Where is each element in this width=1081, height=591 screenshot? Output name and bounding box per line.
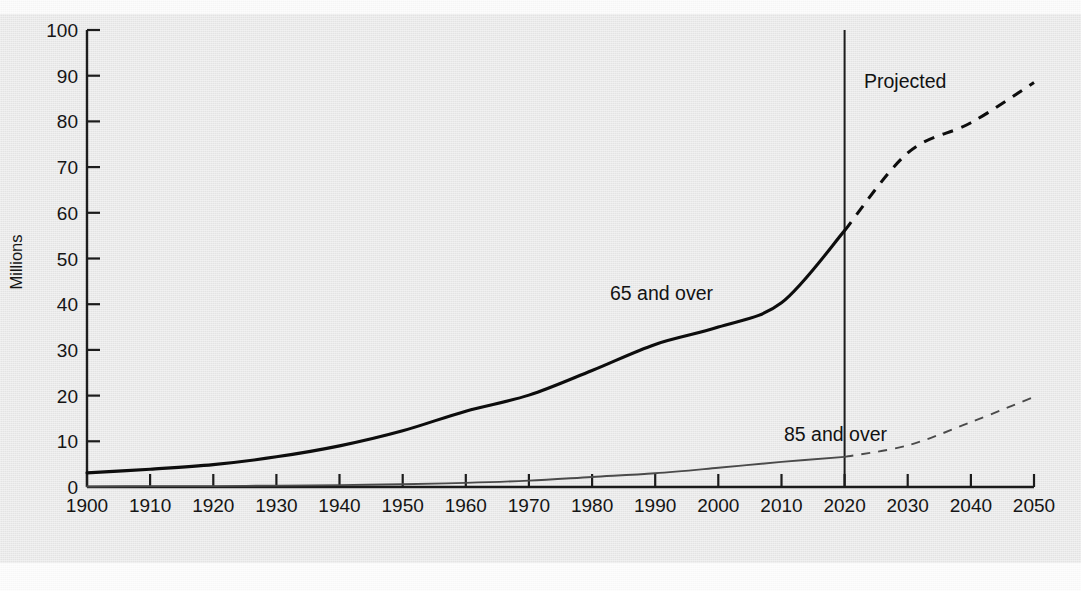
series-line-65-and-over-projected — [845, 83, 1034, 231]
population-age-line-chart: 100 90 80 70 60 50 40 30 20 10 0 Million… — [0, 0, 1081, 591]
series-line-65-and-over-actual — [87, 231, 845, 473]
x-tick-label-1970: 1970 — [508, 495, 550, 516]
projected-label: Projected — [864, 70, 946, 92]
x-tick-label-2000: 2000 — [697, 495, 739, 516]
y-axis-title: Millions — [7, 234, 25, 289]
y-tick-label-60: 60 — [57, 203, 78, 224]
x-tick-label-2020: 2020 — [823, 495, 865, 516]
series-label-85-and-over: 85 and over — [784, 423, 888, 445]
x-tick-label-1900: 1900 — [66, 495, 108, 516]
x-tick-label-1940: 1940 — [318, 495, 360, 516]
x-tick-label-1930: 1930 — [255, 495, 297, 516]
y-tick-label-100: 100 — [46, 20, 78, 41]
y-tick-label-80: 80 — [57, 111, 78, 132]
y-tick-label-50: 50 — [57, 249, 78, 270]
x-tick-label-1910: 1910 — [129, 495, 171, 516]
x-tick-label-1950: 1950 — [382, 495, 424, 516]
x-tick-label-2050: 2050 — [1013, 495, 1055, 516]
y-axis-ticks — [87, 30, 100, 441]
y-tick-label-30: 30 — [57, 340, 78, 361]
x-tick-label-2030: 2030 — [887, 495, 929, 516]
series-label-65-and-over: 65 and over — [610, 282, 714, 304]
x-tick-label-1990: 1990 — [634, 495, 676, 516]
series-lines-layer — [87, 83, 1034, 487]
x-axis-tick-labels: 1900 1910 1920 1930 1940 1950 1960 1970 … — [66, 495, 1055, 516]
x-tick-label-2010: 2010 — [760, 495, 802, 516]
y-tick-label-90: 90 — [57, 66, 78, 87]
y-tick-label-10: 10 — [57, 431, 78, 452]
x-tick-label-1980: 1980 — [571, 495, 613, 516]
y-tick-label-70: 70 — [57, 157, 78, 178]
x-tick-label-1960: 1960 — [445, 495, 487, 516]
y-axis-tick-labels: 100 90 80 70 60 50 40 30 20 10 0 — [46, 20, 78, 498]
y-tick-label-40: 40 — [57, 294, 78, 315]
chart-page: 100 90 80 70 60 50 40 30 20 10 0 Million… — [0, 0, 1081, 591]
y-tick-label-20: 20 — [57, 386, 78, 407]
x-tick-label-1920: 1920 — [192, 495, 234, 516]
x-tick-label-2040: 2040 — [950, 495, 992, 516]
series-line-85-and-over-actual — [87, 457, 845, 487]
